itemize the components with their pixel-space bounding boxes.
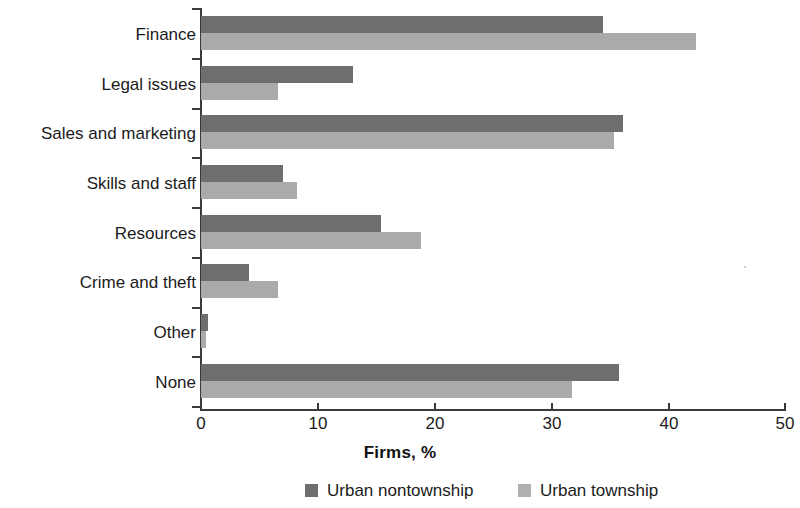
x-axis-tick — [784, 403, 786, 411]
bar-sales-and-marketing-urban-township — [201, 132, 614, 149]
bar-chart: Finance Legal issues Sales and marketing… — [0, 0, 800, 508]
y-axis-tick — [192, 257, 200, 259]
x-axis-tick — [668, 403, 670, 411]
y-axis-tick — [192, 108, 200, 110]
category-label-resources: Resources — [0, 225, 196, 242]
legend-label-urban-nontownship: Urban nontownship — [327, 481, 473, 500]
legend-swatch-icon-urban-township — [518, 484, 531, 497]
x-axis-tick-label-30: 30 — [522, 415, 582, 433]
x-axis-tick-label-40: 40 — [639, 415, 699, 433]
bar-skills-and-staff-urban-township — [201, 182, 297, 199]
category-label-other: Other — [0, 324, 196, 341]
bar-other-urban-nontownship — [201, 314, 208, 331]
y-axis-tick — [192, 207, 200, 209]
x-axis-tick — [317, 403, 319, 411]
category-label-none: None — [0, 374, 196, 391]
bar-group-legal-issues — [201, 66, 785, 100]
bar-finance-urban-nontownship — [201, 16, 603, 33]
x-axis-line — [200, 409, 786, 411]
legend-swatch-icon-urban-nontownship — [305, 484, 318, 497]
x-axis-tick-label-0: 0 — [171, 415, 231, 433]
x-axis-tick-label-50: 50 — [755, 415, 800, 433]
legend-item-urban-township: Urban township — [518, 479, 658, 501]
x-axis-tick-label-10: 10 — [288, 415, 348, 433]
bar-group-finance — [201, 16, 785, 50]
y-axis-tick — [192, 8, 200, 10]
bar-sales-and-marketing-urban-nontownship — [201, 115, 623, 132]
bar-legal-issues-urban-township — [201, 83, 278, 100]
y-axis-tick — [192, 406, 200, 408]
x-axis-tick — [551, 403, 553, 411]
category-label-skills-and-staff: Skills and staff — [0, 175, 196, 192]
y-axis-tick — [192, 157, 200, 159]
chart-legend: Urban nontownship Urban township — [0, 479, 800, 501]
category-label-sales-and-marketing: Sales and marketing — [0, 125, 196, 142]
bar-crime-and-theft-urban-township — [201, 281, 278, 298]
legend-item-urban-nontownship: Urban nontownship — [305, 479, 473, 501]
bar-none-urban-nontownship — [201, 364, 619, 381]
bar-group-sales-and-marketing — [201, 115, 785, 149]
category-axis-labels: Finance Legal issues Sales and marketing… — [0, 10, 196, 408]
bar-group-none — [201, 364, 785, 398]
bar-other-urban-township — [201, 331, 206, 348]
scan-artifact — [744, 266, 746, 268]
legend-label-urban-township: Urban township — [540, 481, 658, 500]
y-axis-tick — [192, 307, 200, 309]
category-label-crime-and-theft: Crime and theft — [0, 274, 196, 291]
category-label-legal-issues: Legal issues — [0, 76, 196, 93]
bar-group-resources — [201, 215, 785, 249]
category-label-finance: Finance — [0, 26, 196, 43]
bar-group-skills-and-staff — [201, 165, 785, 199]
x-axis-tick — [434, 403, 436, 411]
x-axis-tick — [200, 403, 202, 411]
bar-crime-and-theft-urban-nontownship — [201, 264, 249, 281]
y-axis-tick — [192, 356, 200, 358]
plot-area — [201, 10, 785, 408]
bar-resources-urban-township — [201, 232, 421, 249]
bar-legal-issues-urban-nontownship — [201, 66, 353, 83]
bar-resources-urban-nontownship — [201, 215, 381, 232]
bar-group-other — [201, 314, 785, 348]
bar-finance-urban-township — [201, 33, 696, 50]
x-axis-title: Firms, % — [0, 443, 800, 463]
bar-group-crime-and-theft — [201, 264, 785, 298]
bar-skills-and-staff-urban-nontownship — [201, 165, 283, 182]
x-axis-tick-label-20: 20 — [405, 415, 465, 433]
bar-none-urban-township — [201, 381, 572, 398]
y-axis-tick — [192, 58, 200, 60]
